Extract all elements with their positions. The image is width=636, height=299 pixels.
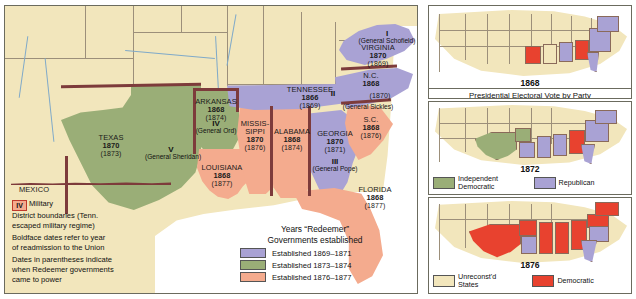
mini-map-1868 bbox=[429, 6, 632, 78]
mini-state-louisiana-1868 bbox=[525, 46, 541, 64]
electoral-panel-1876: 1876 Unreconst'd States Democratic bbox=[428, 197, 632, 294]
legend-swatch-salmon bbox=[240, 272, 266, 282]
district-label-iii: III (General Pope) bbox=[311, 158, 359, 173]
main-map-panel: TEXAS 1870 (1873) ARKANSAS 1868 (1874) L… bbox=[4, 5, 418, 294]
mini-state-alabama-1872 bbox=[553, 134, 567, 156]
mini-state-south-carolina-1876 bbox=[589, 226, 609, 242]
legend-label-1873-1874: Established 1873–1874 bbox=[272, 261, 351, 270]
note-line-4: Boldface dates refer to year bbox=[11, 233, 179, 243]
label-north-carolina: N.C. 1868 bbox=[351, 72, 391, 88]
mini-legend-swatch-unreconstructed bbox=[433, 275, 455, 287]
state-border-line bbox=[133, 32, 227, 33]
note-military-swatch-row: IVMilitary bbox=[11, 199, 179, 211]
state-border-line bbox=[335, 22, 336, 84]
note-line-1: Military bbox=[29, 199, 53, 208]
legend-title-line-2: Governments established bbox=[240, 235, 390, 246]
legend-label-1876-1877: Established 1876–1877 bbox=[272, 273, 351, 282]
mini-map-1876 bbox=[429, 198, 632, 264]
district-label-iv: IV (General Ord) bbox=[191, 120, 241, 135]
legend-item-1873-1874: Established 1873–1874 bbox=[240, 260, 390, 270]
mini-state-virginia-1876 bbox=[595, 202, 619, 216]
legend-swatch-olive bbox=[240, 260, 266, 270]
mini-legend-label-democratic: Democratic bbox=[557, 277, 627, 285]
district-label-v: V (General Sheridan) bbox=[145, 146, 197, 161]
mini-year-1876: 1876 bbox=[429, 260, 631, 270]
mini-legend-swatch-democratic bbox=[532, 275, 554, 287]
label-mexico: MEXICO bbox=[9, 186, 59, 194]
state-border-line bbox=[301, 12, 302, 84]
label-virginia: VIRGINIA 1870 (1869) bbox=[347, 44, 409, 67]
electoral-caption: Presidential Electoral Vote by Party bbox=[429, 88, 631, 99]
label-florida: FLORIDA 1868 (1877) bbox=[349, 186, 401, 209]
state-border-line bbox=[227, 6, 228, 86]
mini-legend-1876: Unreconst'd States Democratic bbox=[429, 273, 631, 289]
state-border-line bbox=[181, 6, 182, 32]
state-border-line bbox=[133, 6, 134, 91]
river-line bbox=[125, 50, 215, 59]
mini-state-mississippi-1876 bbox=[539, 222, 553, 254]
mini-state-louisiana-1872 bbox=[519, 142, 535, 158]
mini-legend-label-republican: Republican bbox=[559, 179, 628, 187]
reconstruction-map-figure: TEXAS 1870 (1873) ARKANSAS 1868 (1874) L… bbox=[0, 0, 636, 299]
legend-item-1869-1871: Established 1869–1871 bbox=[240, 248, 390, 258]
mini-legend-1872: Independent Democratic Republican bbox=[429, 175, 631, 191]
mini-state-virginia-1872 bbox=[595, 110, 617, 124]
map-notes: IVMilitary District boundaries (Tenn. es… bbox=[11, 199, 179, 281]
mini-state-louisiana-1876 bbox=[521, 236, 537, 254]
note-line-2: District boundaries (Tenn. bbox=[11, 211, 179, 221]
mini-state-arkansas-1872 bbox=[515, 128, 531, 142]
river-line bbox=[45, 58, 55, 142]
mini-state-virginia-1868 bbox=[597, 16, 619, 32]
district-swatch-icon: IV bbox=[12, 200, 27, 211]
mini-state-georgia-1868 bbox=[575, 40, 589, 60]
mini-state-mississippi-1868 bbox=[543, 44, 557, 64]
label-south-carolina: S.C. 1868 (1876) bbox=[351, 116, 391, 139]
mini-state-mississippi-1872 bbox=[537, 136, 551, 158]
mini-state-arkansas-1876 bbox=[519, 220, 537, 236]
mini-legend-label-unreconstructed: Unreconst'd States bbox=[458, 273, 529, 289]
label-arkansas: ARKANSAS 1868 (1874) bbox=[187, 98, 245, 121]
electoral-panel-1872: 1872 Independent Democratic Republican bbox=[428, 101, 632, 195]
state-border-line bbox=[263, 6, 264, 84]
electoral-panel-1868: 1868 Presidential Electoral Vote by Part… bbox=[428, 5, 632, 99]
note-line-3: escaped military regime) bbox=[11, 221, 179, 231]
state-alabama bbox=[271, 108, 311, 198]
district-label-i: I (General Schofield) bbox=[357, 30, 417, 45]
legend-title: Years “Redeemer” Governments established bbox=[240, 224, 390, 245]
state-border-line bbox=[85, 6, 86, 58]
legend-item-1876-1877: Established 1876–1877 bbox=[240, 272, 390, 282]
note-line-6: Dates in parentheses indicate bbox=[11, 255, 179, 265]
legend-title-line-1: Years “Redeemer” bbox=[240, 224, 390, 235]
military-district-boundary bbox=[193, 88, 239, 91]
mini-legend-swatch-republican bbox=[534, 177, 556, 189]
note-line-5: of readmission to the Union bbox=[11, 243, 179, 253]
note-line-8: came to power bbox=[11, 275, 179, 285]
mini-legend-label-independent-democratic: Independent Democratic bbox=[458, 175, 531, 191]
label-north-carolina-redeemer: (1870) bbox=[363, 92, 397, 99]
mini-state-alabama-1876 bbox=[555, 222, 569, 254]
mini-state-alabama-1868 bbox=[559, 42, 573, 62]
river-line bbox=[19, 36, 29, 98]
district-label-ii-general: (General Sickles) bbox=[335, 104, 401, 111]
label-louisiana: LOUISIANA 1868 (1877) bbox=[191, 164, 253, 187]
map-legend: Years “Redeemer” Governments established… bbox=[240, 224, 390, 284]
mini-map-1872 bbox=[429, 102, 632, 166]
district-label-ii: II bbox=[323, 90, 343, 98]
note-line-7: when Redeemer governments bbox=[11, 265, 179, 275]
mini-year-1868: 1868 bbox=[429, 78, 631, 88]
legend-label-1869-1871: Established 1869–1871 bbox=[272, 249, 351, 258]
mini-year-1872: 1872 bbox=[429, 164, 631, 174]
legend-swatch-purple bbox=[240, 248, 266, 258]
mini-legend-swatch-independent-democratic bbox=[433, 177, 455, 189]
label-texas: TEXAS 1870 (1873) bbox=[81, 134, 141, 157]
